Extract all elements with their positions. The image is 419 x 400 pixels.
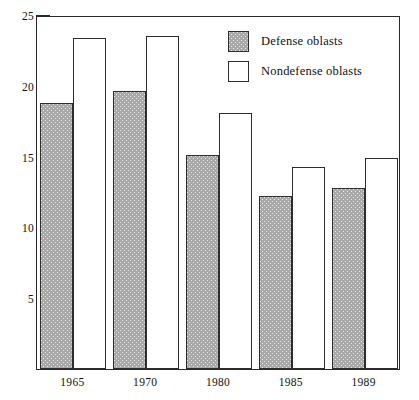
legend-label-nondefense: Nondefense oblasts xyxy=(261,64,362,79)
x-tick-label-1980: 1980 xyxy=(183,376,253,388)
bar-nondefense-1965 xyxy=(73,38,106,369)
bar-defense-1980 xyxy=(186,155,219,369)
bar-nondefense-1985 xyxy=(292,167,325,369)
legend-label-defense: Defense oblasts xyxy=(261,34,343,49)
bar-defense-1970 xyxy=(113,91,146,369)
bar-defense-1965 xyxy=(40,103,73,369)
bar-chart-figure: 510152025 19651970198019851989 Defense o… xyxy=(0,0,419,400)
bar-defense-1985 xyxy=(259,196,292,369)
y-axis: 510152025 xyxy=(0,0,36,400)
x-tick-label-1965: 1965 xyxy=(37,376,107,388)
legend-item-defense: Defense oblasts xyxy=(228,26,362,56)
bar-nondefense-1980 xyxy=(219,113,252,369)
y-tick-label: 5 xyxy=(4,290,34,308)
legend-swatch-nondefense-icon xyxy=(228,61,249,82)
x-tick-label-1970: 1970 xyxy=(110,376,180,388)
y-tick-label: 25 xyxy=(4,7,34,25)
y-tick-label: 15 xyxy=(4,149,34,167)
x-tick-label-1985: 1985 xyxy=(256,376,326,388)
legend-swatch-defense-icon xyxy=(228,31,249,52)
x-axis: 19651970198019851989 xyxy=(36,372,400,400)
bar-nondefense-1989 xyxy=(365,158,398,369)
chart-legend: Defense oblasts Nondefense oblasts xyxy=(228,26,362,86)
legend-item-nondefense: Nondefense oblasts xyxy=(228,56,362,86)
y-tick-label: 20 xyxy=(4,78,34,96)
bar-nondefense-1970 xyxy=(146,36,179,369)
x-tick-label-1989: 1989 xyxy=(329,376,399,388)
y-tick-label: 10 xyxy=(4,219,34,237)
bar-defense-1989 xyxy=(332,188,365,369)
